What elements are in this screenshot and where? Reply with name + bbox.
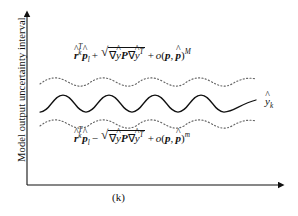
hat-accent-icon: ^ <box>116 127 121 137</box>
upper-operator: + <box>90 49 100 61</box>
y-hat1-upper: ^y <box>116 49 121 61</box>
lower-bound-formula: ^rTk^pl−√∇^yP∇^yT+o(p, ^p)m <box>74 130 190 147</box>
p-hat-symbol-lower: ^p <box>82 132 88 144</box>
hat-accent-icon: ^ <box>82 44 88 54</box>
radicand-lower: ∇^yP∇^yT <box>108 130 145 145</box>
hat-accent-icon: ^ <box>135 127 140 137</box>
upper-plus: + <box>146 49 156 61</box>
hat-accent-icon: ^ <box>135 44 140 54</box>
o-arg2-hat-lower: ^p <box>175 132 181 144</box>
hat-accent-icon: ^ <box>265 90 270 100</box>
y-axis-label: Model output uncertainty interval <box>16 0 27 185</box>
o-exponent-upper: M <box>185 48 191 56</box>
nabla2-upper: ∇ <box>128 49 135 61</box>
y-hat2-upper: ^y <box>135 49 140 61</box>
lower-operator: − <box>90 132 100 144</box>
o-exponent-lower: m <box>185 131 190 139</box>
y2-superscript-lower: T <box>140 131 144 139</box>
hat-accent-icon: ^ <box>82 127 88 137</box>
lower-envelope-curve <box>40 120 256 128</box>
nabla1-upper: ∇ <box>109 49 116 61</box>
center-prediction-curve <box>40 95 256 112</box>
x-axis-label: (k) <box>112 191 125 203</box>
o-arg2-hat-upper: ^p <box>175 49 181 61</box>
nabla2-lower: ∇ <box>128 132 135 144</box>
y-subscript-label: k <box>270 102 273 110</box>
y2-superscript-upper: T <box>140 48 144 56</box>
radical-sign-icon: √ <box>101 45 108 58</box>
P-glyph-upper: P <box>121 49 128 61</box>
y-hat1-lower: ^y <box>116 132 121 144</box>
y-hat-label-symbol: ^y <box>265 95 270 107</box>
y-hat2-lower: ^y <box>135 132 140 144</box>
hat-accent-icon: ^ <box>116 44 121 54</box>
nabla1-lower: ∇ <box>109 132 116 144</box>
upper-envelope-curve <box>40 78 256 86</box>
P-glyph-lower: P <box>121 132 128 144</box>
sqrt-upper: √∇^yP∇^yT <box>101 47 145 62</box>
radicand-upper: ∇^yP∇^yT <box>108 47 145 62</box>
upper-bound-formula: ^rTk^pl+√∇^yP∇^yT+o(p, ^p)M <box>74 47 191 64</box>
hat-accent-icon: ^ <box>175 127 181 137</box>
radical-sign-icon: √ <box>101 128 108 141</box>
hat-accent-icon: ^ <box>175 44 181 54</box>
lower-plus: + <box>146 132 156 144</box>
uncertainty-interval-figure: Model output uncertainty interval (k) ^r… <box>0 0 298 216</box>
figure-canvas <box>0 0 298 216</box>
p-hat-symbol-upper: ^p <box>82 49 88 61</box>
center-curve-label: ^yk <box>265 95 273 110</box>
sqrt-lower: √∇^yP∇^yT <box>101 130 145 145</box>
